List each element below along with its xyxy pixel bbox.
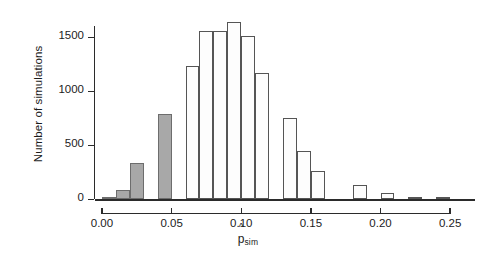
y-tick-label: 500 [44,137,84,149]
y-tick-label: 0 [44,191,84,203]
x-tick [310,208,311,214]
x-axis-line [102,213,450,214]
sim-subscript: sim [244,237,258,247]
histogram-bar [241,36,255,199]
histogram-bar [116,190,130,200]
x-tick [380,208,381,214]
y-tick-label: 1500 [44,29,84,41]
hat-accent: ^ [238,223,245,233]
histogram-bar [353,185,367,200]
x-tick-label: 0.00 [72,217,132,229]
histogram-bar [186,66,200,199]
histogram-bar [311,171,325,200]
x-tick [241,208,242,214]
x-axis-title: ^ p sim [0,232,496,247]
p-hat-symbol: ^ p [238,232,245,246]
histogram-bar [213,31,227,200]
x-tick-label: 0.05 [142,217,202,229]
p-letter: p [238,232,245,246]
x-tick [101,208,102,214]
histogram-bar [158,114,172,199]
y-tick-label: 1000 [44,83,84,95]
y-tick [88,199,94,200]
y-tick [88,145,94,146]
histogram-bar [199,31,213,199]
y-axis-title: Number of simulations [32,4,44,204]
histogram-bar [255,73,269,200]
x-tick [449,208,450,214]
x-tick-label: 0.20 [351,217,411,229]
plot-area [95,10,485,199]
x-axis-baseline [95,199,475,200]
y-tick [88,91,94,92]
histogram-bars [95,10,485,199]
x-tick-label: 0.25 [420,217,480,229]
histogram-bar [227,22,241,200]
histogram-bar [297,151,311,200]
y-tick [88,37,94,38]
histogram-bar [283,118,297,200]
histogram-figure: Number of simulations 050010001500 0.000… [0,0,496,257]
x-tick [171,208,172,214]
x-tick-label: 0.15 [281,217,341,229]
histogram-bar [130,163,144,199]
